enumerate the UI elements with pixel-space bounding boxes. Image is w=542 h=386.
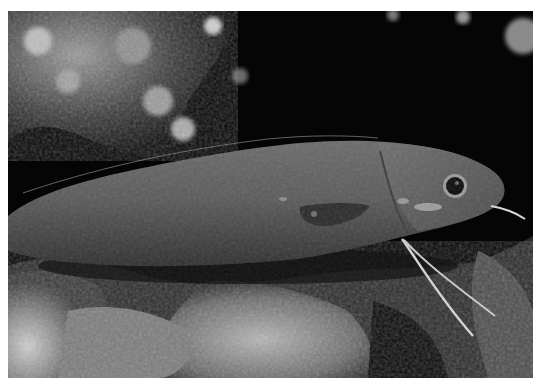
fish-photo [8,11,533,378]
reef-top-left [8,11,248,161]
photo-frame: Grayscale underwater photograph of an el… [8,11,533,378]
